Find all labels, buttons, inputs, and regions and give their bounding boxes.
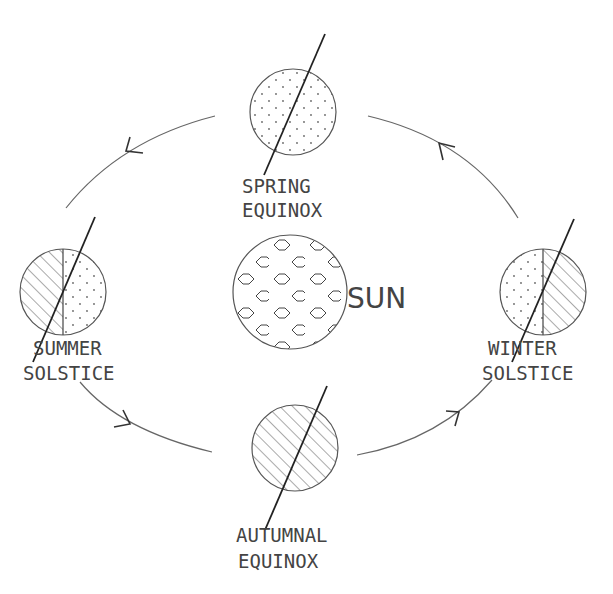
label-autumn-line2: EQUINOX (238, 550, 319, 572)
label-sun: SUN (347, 282, 406, 315)
label-autumn-line1: AUTUMNAL (236, 524, 328, 546)
label-winter-line1: WINTER (488, 337, 557, 359)
label-spring-line2: EQUINOX (242, 199, 323, 221)
season-orbit-diagram: SPRING EQUINOX SUMMER SOLSTICE WINTER SO… (0, 0, 613, 594)
label-summer-line2: SOLSTICE (23, 362, 115, 384)
earth-spring-equinox (250, 34, 336, 175)
label-spring-line1: SPRING (242, 175, 311, 197)
sun (233, 235, 347, 349)
earth-autumnal-equinox (252, 386, 338, 530)
label-summer-line1: SUMMER (33, 337, 102, 359)
label-winter-line2: SOLSTICE (482, 362, 574, 384)
